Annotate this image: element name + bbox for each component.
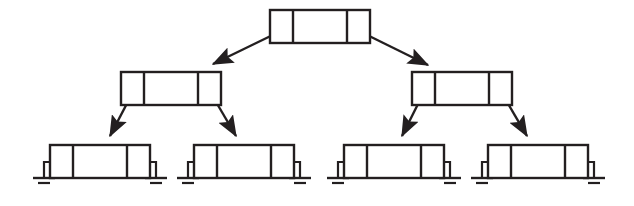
node-leaf-3[interactable] xyxy=(327,145,461,183)
node-leaf-1[interactable] xyxy=(33,145,167,183)
node-outline xyxy=(344,145,444,178)
node-internal-right[interactable] xyxy=(412,72,512,105)
node-outline xyxy=(270,10,370,43)
binary-tree-diagram xyxy=(0,0,634,206)
node-internal-left[interactable] xyxy=(121,72,221,105)
node-leaf-2[interactable] xyxy=(177,145,311,183)
node-outline xyxy=(50,145,150,178)
node-root[interactable] xyxy=(270,10,370,43)
diagram-canvas xyxy=(0,0,634,206)
node-outline xyxy=(194,145,294,178)
node-leaf-4[interactable] xyxy=(471,145,605,183)
node-outline xyxy=(121,72,221,105)
node-outline xyxy=(488,145,588,178)
node-outline xyxy=(412,72,512,105)
